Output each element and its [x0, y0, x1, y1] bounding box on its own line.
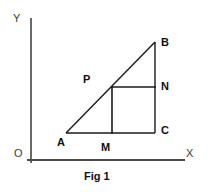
vertex-label-a: A [57, 137, 65, 148]
vertex-label-c: C [161, 125, 169, 136]
y-axis-label: Y [13, 13, 20, 24]
origin-label: O [14, 148, 23, 159]
vertex-label-b: B [161, 37, 169, 48]
figure-caption: Fig 1 [84, 170, 110, 182]
geometry-drawing [0, 0, 208, 192]
vertex-label-p: P [83, 74, 90, 85]
vertex-label-m: M [101, 142, 110, 153]
x-axis-label: X [186, 148, 193, 159]
geometry-figure: Y X O A B C N P M Fig 1 [0, 0, 208, 192]
vertex-label-n: N [161, 81, 169, 92]
